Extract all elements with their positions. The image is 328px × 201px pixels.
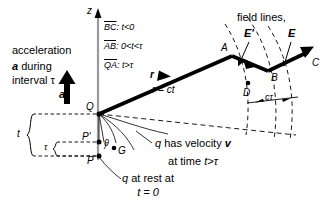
q-velocity-leader [136,131,152,143]
bracket-tau [58,142,96,156]
legend-segment-qa: QA [104,60,117,70]
bracket-t-brace [27,114,34,156]
field-lines-label: field lines, [237,11,286,24]
at-time-condition: t>τ [204,155,218,167]
point-label-B: B [271,72,278,84]
r-vector-label: r [150,69,154,81]
c-tau-label: cτ [265,92,273,103]
bracket-tau-label: τ [44,142,47,153]
legend-row: QA: t>τ [104,54,142,72]
thick-line-arrowheads [157,47,314,82]
field-lines-diagram: z BC: t<0 AB: 0<t<τ QA: t>τ acceleration… [0,0,328,201]
r-equals-ct-label: r = ct [152,84,175,96]
point-D-dot [246,81,251,86]
E-prime-label: E′ [244,27,254,40]
acceleration-line-1: acceleration [12,44,104,56]
acceleration-annotation: acceleration a during interval τ [12,44,104,86]
theta-label: θ [104,138,109,149]
point-Pprime-dot [97,140,102,145]
q-velocity-line-1: q has velocity v [155,133,231,151]
acceleration-during: during [18,60,52,72]
E-prime-leader [240,42,249,62]
legend-row: BC: t<0 [104,16,142,34]
q-rest-line-2: t = 0 [122,186,174,198]
segment-legend: BC: t<0 AB: 0<t<τ QA: t>τ [104,16,142,72]
legend-condition-ab: : 0<t<τ [116,41,142,51]
q-rest-annotation: q at rest at t = 0 [122,168,174,198]
point-label-P-prime: P′ [82,131,91,143]
velocity-vector-v: v [225,137,231,149]
q-velocity-text: has velocity [161,137,225,149]
point-P-dot [97,154,102,159]
acceleration-arrow-label: a [59,88,65,101]
wavefront-arcs [225,18,292,140]
point-Q-dot [96,111,101,116]
point-label-D: D [243,87,250,99]
point-label-P: P [87,155,94,167]
bracket-t-label: t [17,128,20,140]
axis-label-z: z [87,5,92,17]
q-velocity-annotation: q has velocity v at time t>τ [155,133,231,169]
acceleration-line-3: interval τ [12,74,104,86]
bracket-tau-brace [53,142,58,156]
legend-segment-bc: BC [104,22,117,32]
point-label-Q: Q [86,101,94,113]
point-G-dot [112,146,117,151]
at-time-text: at time [168,155,204,167]
retarded-ray-dashed [99,114,296,135]
E-label: E [288,27,295,40]
point-label-C: C [312,57,319,69]
legend-row: AB: 0<t<τ [104,35,142,53]
point-label-G: G [118,145,126,157]
q-rest-text: at rest at [128,172,174,184]
acceleration-line-2: a during [12,56,104,74]
q-rest-leader [99,157,121,179]
legend-condition-bc: : t<0 [117,22,135,32]
legend-segment-ab: AB [104,41,116,51]
q-rest-line-1: q at rest at [122,168,174,186]
q-velocity-line-2: at time t>τ [155,151,231,169]
point-label-A: A [221,42,228,54]
legend-condition-qa: : t>τ [117,60,133,70]
